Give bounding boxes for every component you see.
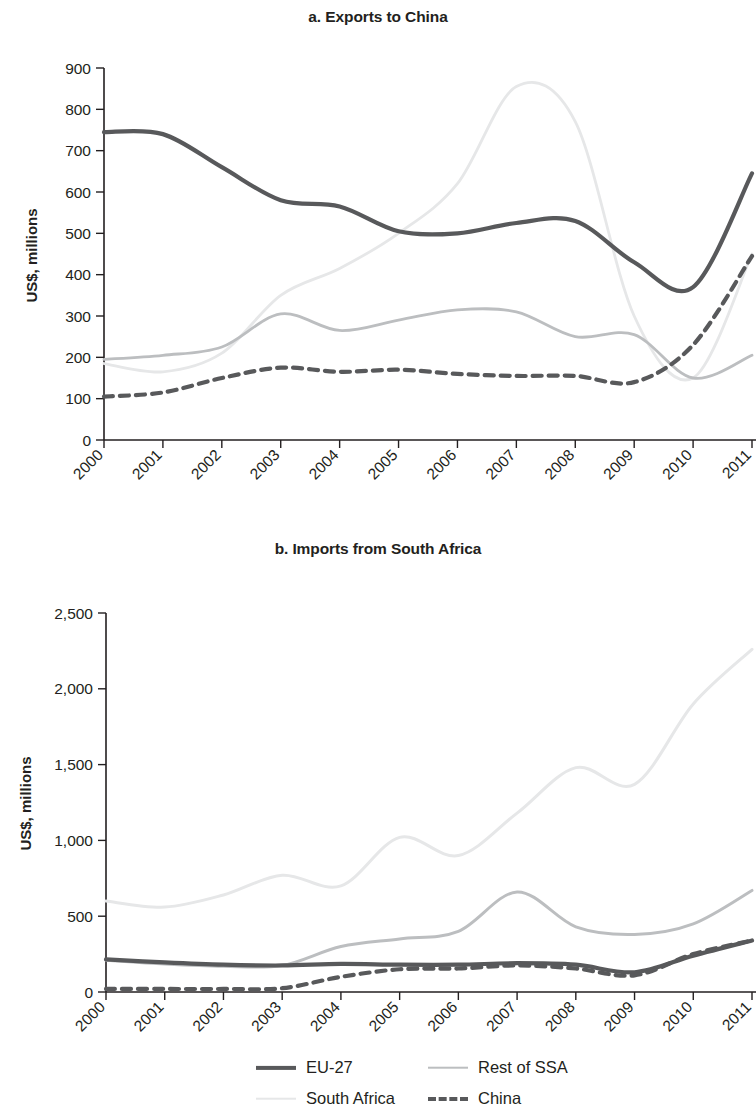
- panel-b-title: b. Imports from South Africa: [0, 540, 756, 558]
- y-tick-label: 1,500: [54, 756, 93, 773]
- legend-label-rest-of-ssa: Rest of SSA: [478, 1058, 568, 1077]
- line-swatch-rest-of-ssa: [428, 1061, 468, 1075]
- x-tick-label: 2001: [130, 998, 166, 1034]
- panel-a-title: a. Exports to China: [0, 8, 756, 26]
- legend-row-1: EU-27 Rest of SSA: [0, 1052, 756, 1083]
- x-tick-label: 2003: [246, 446, 282, 482]
- y-tick-label: 0: [82, 432, 91, 449]
- x-tick-label: 2008: [542, 998, 578, 1034]
- legend-row-2: South Africa China: [0, 1083, 756, 1114]
- x-tick-label: 2001: [129, 446, 165, 482]
- x-tick-label: 2009: [600, 446, 636, 482]
- x-tick-label: 2004: [307, 998, 344, 1035]
- x-tick-label: 2002: [189, 998, 225, 1034]
- legend-item-south-africa[interactable]: South Africa: [256, 1089, 428, 1108]
- y-tick-label: 300: [65, 308, 91, 325]
- line-swatch-south-africa: [256, 1092, 296, 1106]
- legend-label-china: China: [478, 1089, 521, 1108]
- figure-container: a. Exports to China US$, millions 010020…: [0, 0, 756, 1118]
- x-tick-label: 2000: [72, 998, 109, 1035]
- x-tick-label: 2011: [719, 446, 755, 482]
- legend-item-eu-27[interactable]: EU-27: [256, 1058, 428, 1077]
- x-tick-label: 2007: [483, 998, 519, 1034]
- legend-label-south-africa: South Africa: [306, 1089, 395, 1108]
- series-line-south-africa: [104, 82, 752, 380]
- y-tick-label: 800: [65, 101, 91, 118]
- line-swatch-eu27: [256, 1061, 296, 1075]
- x-tick-label: 2003: [248, 998, 284, 1034]
- y-tick-label: 1,000: [54, 832, 93, 849]
- series-line-rest-of-ssa: [104, 309, 752, 379]
- y-tick-label: 0: [84, 984, 93, 1001]
- x-tick-label: 2011: [719, 998, 755, 1034]
- y-tick-label: 200: [65, 349, 91, 366]
- legend-item-china[interactable]: China: [428, 1089, 521, 1108]
- y-tick-label: 2,000: [54, 680, 93, 697]
- line-swatch-china: [428, 1092, 468, 1106]
- x-tick-label: 2008: [541, 446, 577, 482]
- x-tick-label: 2006: [423, 446, 459, 482]
- chart-exports-to-china: 0100200300400500600700800900200020012002…: [0, 30, 756, 530]
- x-tick-label: 2000: [70, 446, 107, 483]
- y-tick-label: 700: [65, 142, 91, 159]
- series-line-rest-of-ssa: [106, 890, 752, 967]
- y-tick-label: 100: [65, 390, 91, 407]
- series-line-south-africa: [106, 649, 752, 907]
- x-tick-label: 2004: [305, 446, 342, 483]
- x-tick-label: 2010: [659, 446, 696, 483]
- x-tick-label: 2009: [600, 998, 636, 1034]
- legend-item-rest-of-ssa[interactable]: Rest of SSA: [428, 1058, 568, 1077]
- legend: EU-27 Rest of SSA South Africa China: [0, 1052, 756, 1114]
- y-tick-label: 500: [67, 908, 93, 925]
- y-tick-label: 2,500: [54, 605, 93, 622]
- x-tick-label: 2006: [424, 998, 460, 1034]
- x-tick-label: 2007: [482, 446, 518, 482]
- x-tick-label: 2002: [188, 446, 224, 482]
- y-tick-label: 400: [65, 266, 91, 283]
- y-tick-label: 900: [65, 60, 91, 77]
- legend-label-eu-27: EU-27: [306, 1058, 353, 1077]
- chart-imports-from-south-africa: 05001,0001,5002,0002,5002000200120022003…: [0, 578, 756, 1038]
- x-tick-label: 2010: [659, 998, 696, 1035]
- x-tick-label: 2005: [364, 446, 400, 482]
- y-tick-label: 600: [65, 184, 91, 201]
- x-tick-label: 2005: [365, 998, 401, 1034]
- y-tick-label: 500: [65, 225, 91, 242]
